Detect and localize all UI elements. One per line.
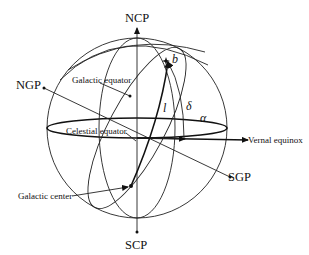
ncp-label: NCP <box>125 11 149 25</box>
sgp-label: SGP <box>228 170 251 184</box>
celestial-equator-label: Celestial equator <box>66 126 127 136</box>
galactic-meridian <box>68 44 205 70</box>
right-ascension-symbol: α <box>200 111 207 125</box>
celestial-equator-leader <box>126 133 136 141</box>
galactic-center-leader <box>72 187 128 196</box>
galactic-longitude-symbol: l <box>163 101 167 115</box>
scp-label: SCP <box>125 238 147 252</box>
vernal-equinox-label: Vernal equinox <box>248 135 303 145</box>
galactic-equator-label: Galactic equator <box>72 75 131 85</box>
ngp-label: NGP <box>16 78 41 92</box>
galactic-latitude-symbol: b <box>172 52 178 66</box>
declination-symbol: δ <box>186 99 192 113</box>
declination-arc <box>168 62 184 138</box>
galactic-center-label: Galactic center <box>18 191 72 201</box>
galactic-center-dot <box>129 184 133 188</box>
celestial-sphere-diagram: NCP SCP NGP SGP Galactic equator Celesti… <box>0 0 309 255</box>
